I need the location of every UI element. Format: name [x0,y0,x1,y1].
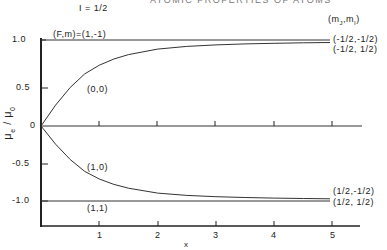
series-1-0 [41,126,330,199]
ytick-05: 0.5 [16,82,30,92]
curve-label-11: (1,1) [87,203,108,213]
right-label-1: (-1/2,-1/2) [333,34,378,44]
right-label-4: (1/2, 1/2) [333,197,374,207]
curve-label-top: (F,m)=(1,-1) [53,29,106,39]
curve-label-10: (1,0) [87,162,108,172]
xtick-5: 5 [330,230,336,240]
curve-label-00: (0,0) [87,84,108,94]
xtick-1: 1 [97,230,103,240]
y-axis-label: μe / μ0 [1,107,15,140]
right-label-2: (-1/2, 1/2) [333,44,378,54]
series-0-0 [41,43,330,127]
right-label-3: (1/2,-1/2) [333,186,375,196]
ytick-m1: -1.0 [12,195,30,205]
ytick-1: 1.0 [12,34,26,44]
xtick-3: 3 [213,230,219,240]
x-axis-label: x [184,240,189,249]
xtick-2: 2 [155,230,161,240]
ytick-m05: -0.5 [12,158,30,168]
xtick-4: 4 [271,230,277,240]
ytick-0: 0 [30,120,36,130]
